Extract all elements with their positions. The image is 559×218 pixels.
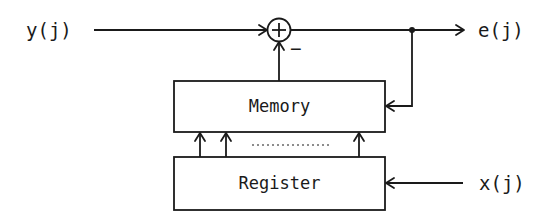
feedback-arrow [386,30,412,111]
block-diagram: y(j) − e(j) Memory Register [0,0,559,218]
minus-sign: − [290,37,301,59]
memory-to-summer-arrow [274,42,284,81]
output-label-e: e(j) [478,19,524,41]
y-to-summer-arrow [94,25,267,35]
summer-to-output-arrow [291,25,464,35]
input-label-x: x(j) [479,172,525,194]
summer-node [268,19,291,42]
memory-label: Memory [249,96,310,116]
input-label-y: y(j) [26,19,72,41]
register-to-memory-arrows [195,133,364,157]
x-to-register-arrow [386,178,463,188]
register-label: Register [239,173,321,193]
